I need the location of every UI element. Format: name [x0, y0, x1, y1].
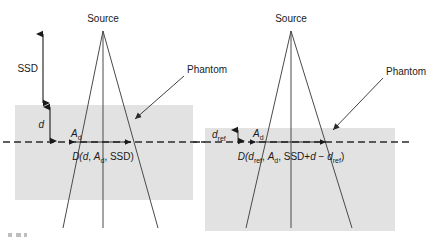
caption-stub	[8, 233, 27, 237]
right-dose-suffix: )	[341, 151, 344, 162]
left-depth-label: d	[38, 119, 44, 130]
left-dose-arg3: SSD	[110, 151, 131, 162]
right-dose-expression: D(dref, Ad, SSD+d − dref)	[238, 151, 344, 164]
diagram-canvas: Source SSD d Ad Phantom D(d, Ad, SSD)	[0, 0, 430, 241]
left-dose-suffix: )	[131, 151, 134, 162]
right-phantom-slab	[205, 128, 395, 231]
right-field-area-sub: d	[260, 134, 264, 141]
right-depth-sub: ref	[218, 135, 226, 142]
phantom-leader-arrow-right	[333, 78, 383, 130]
radiation-dose-diagram: Source SSD d Ad Phantom D(d, Ad, SSD)	[0, 0, 430, 241]
right-dose-arg1-sub: ref	[254, 157, 262, 164]
right-panel-group: Source dref Ad Phantom D(dref, Ad, SSD+d…	[193, 13, 426, 231]
left-field-area-sub: d	[78, 134, 82, 141]
left-source-label: Source	[87, 13, 119, 24]
left-ssd-label: SSD	[17, 63, 38, 74]
right-dose-arg3: SSD+	[284, 151, 311, 162]
right-phantom-label: Phantom	[386, 66, 426, 77]
left-panel-group: Source SSD d Ad Phantom D(d, Ad, SSD)	[3, 13, 227, 228]
left-phantom-label: Phantom	[187, 64, 227, 75]
right-dose-minus: −	[316, 151, 327, 162]
right-dose-arg3c-sub: ref	[333, 157, 341, 164]
right-source-label: Source	[275, 13, 307, 24]
